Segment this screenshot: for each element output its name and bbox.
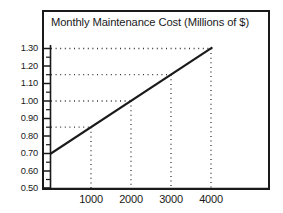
ytick-label: 1.20 (12, 61, 38, 71)
data-line-series-1 (51, 48, 212, 154)
xtick-label: 1000 (71, 193, 111, 205)
chart-figure: Monthly Maintenance Cost (Millions of $) (0, 0, 283, 213)
vertical-guide-lines (91, 49, 211, 189)
xtick-label: 3000 (151, 193, 191, 205)
ytick-label: 1.30 (12, 43, 38, 53)
ytick-label: 0.70 (12, 148, 38, 158)
xtick-label: 2000 (111, 193, 151, 205)
ytick-label: 1.10 (12, 78, 38, 88)
ytick-label: 1.00 (12, 96, 38, 106)
xtick-label: 4000 (191, 193, 231, 205)
ytick-label: 0.80 (12, 131, 38, 141)
ytick-label: 0.90 (12, 113, 38, 123)
ytick-label: 0.60 (12, 166, 38, 176)
chart-canvas (0, 0, 283, 213)
ytick-label: 0.50 (12, 183, 38, 193)
